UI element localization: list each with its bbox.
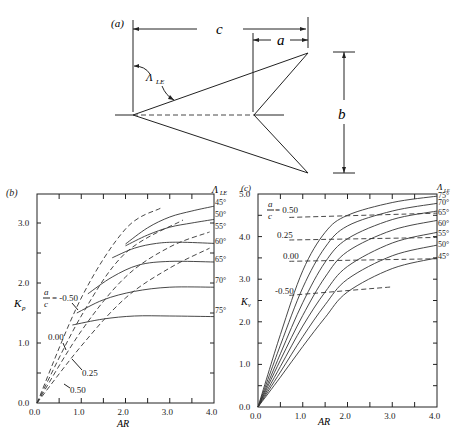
panel-b-ticks: 0.01.02.03.04.00.01.02.03.045°50°55°60°6… xyxy=(18,194,226,417)
x-tick-label: 0.0 xyxy=(29,407,41,417)
ac-ratio-curve xyxy=(289,213,437,217)
panel-b-ac-000: 0.00 xyxy=(48,332,64,342)
figure-canvas: (a) c a Λ LE b ( xyxy=(0,0,463,436)
panel-b-ylabel: K xyxy=(13,297,22,309)
dim-b-label: b xyxy=(338,106,346,122)
panel-c-ac-025: 0.25 xyxy=(277,230,293,240)
y-tick-label: 0.0 xyxy=(18,398,30,408)
sweep-curve xyxy=(258,220,437,407)
sweep-angle-label: 45° xyxy=(215,198,226,207)
sweep-angle-label: 65° xyxy=(215,255,226,264)
sweep-angle-label: 50° xyxy=(215,210,226,219)
panel-b-sweep-header-sub: LE xyxy=(219,190,227,196)
x-tick-label: 1.0 xyxy=(295,411,307,421)
panel-a-planform: (a) c a Λ LE b xyxy=(111,17,355,173)
sweep-curve xyxy=(77,287,214,313)
panel-c-ac-den: c xyxy=(268,211,272,221)
y-tick-label: 5.0 xyxy=(239,189,251,199)
panel-b-ac-num: a xyxy=(44,287,49,297)
sweep-angle-label: 70° xyxy=(215,276,226,285)
sweep-angle-label: 60° xyxy=(215,237,226,246)
sweep-angle-label: 60° xyxy=(438,219,449,228)
sweep-angle-label: 65° xyxy=(438,208,449,217)
panel-c-sweep-header-sub: LE xyxy=(443,188,450,193)
y-tick-label: 3.0 xyxy=(239,274,251,284)
dim-a-label: a xyxy=(277,32,285,48)
x-tick-label: 0.0 xyxy=(250,411,262,421)
x-tick-label: 2.0 xyxy=(340,411,352,421)
sweep-angle-label: 55° xyxy=(438,229,449,238)
y-tick-label: 3.0 xyxy=(18,218,30,228)
panel-b-sweep-header: Λ xyxy=(211,184,218,195)
panel-c-ac-first: = 0.50 xyxy=(275,205,299,215)
sweep-curve xyxy=(72,316,214,325)
sweep-angle-label: 75° xyxy=(215,306,226,315)
panel-c-curves xyxy=(258,196,437,407)
panel-b-chart: (b) 0.01.02.03.04.00.01.02.03.045°50°55°… xyxy=(6,184,227,429)
panel-c-xlabel: AR xyxy=(317,416,330,427)
panel-c-chart: (c) 0.01.02.03.04.00.01.02.03.04.05.075°… xyxy=(239,182,450,427)
dim-c-label: c xyxy=(216,21,223,37)
panel-b-curves xyxy=(37,206,214,403)
x-tick-label: 1.0 xyxy=(73,407,85,417)
x-tick-label: 2.0 xyxy=(118,407,130,417)
y-tick-label: 2.0 xyxy=(239,317,251,327)
panel-b-ac-025: 0.25 xyxy=(82,368,98,378)
panel-b-ac-050: 0.50 xyxy=(70,385,86,395)
y-tick-label: 1.0 xyxy=(239,359,251,369)
panel-b-ac-first: = -0.50 xyxy=(52,293,79,303)
x-tick-label: 3.0 xyxy=(162,407,174,417)
sweep-angle-subscript: LE xyxy=(155,78,165,86)
y-tick-label: 4.0 xyxy=(239,232,251,242)
panel-c-ac-000: 0.00 xyxy=(283,251,299,261)
panel-b-ac-den: c xyxy=(44,299,48,309)
x-tick-label: 4.0 xyxy=(429,411,441,421)
sweep-curve xyxy=(258,245,437,407)
ac-ratio-curve xyxy=(289,259,437,262)
panel-c-ac-num: a xyxy=(268,199,273,209)
panel-c-ac-neg050: -0.50 xyxy=(275,286,294,296)
sweep-angle-label: 50° xyxy=(438,240,449,249)
y-tick-label: 2.0 xyxy=(18,278,30,288)
panel-c-ylabel-sub: v xyxy=(248,302,251,308)
panel-c-sweep-header: Λ xyxy=(436,182,443,192)
sweep-curve xyxy=(258,211,437,407)
sweep-curve xyxy=(126,219,215,245)
sweep-curve xyxy=(126,206,215,244)
y-tick-label: 0.0 xyxy=(239,402,251,412)
ac-ratio-curve xyxy=(289,237,437,240)
ac-ratio-curve xyxy=(37,220,183,403)
panel-a-label: (a) xyxy=(111,17,124,30)
ac-ratio-curve xyxy=(289,287,392,296)
panel-b-ylabel-sub: p xyxy=(21,304,26,312)
sweep-angle-symbol: Λ xyxy=(145,71,153,83)
x-tick-label: 4.0 xyxy=(206,407,218,417)
sweep-curve xyxy=(258,196,437,407)
panel-b-label: (b) xyxy=(6,187,18,199)
x-tick-label: 3.0 xyxy=(384,411,396,421)
panel-b-xlabel: AR xyxy=(116,418,129,429)
sweep-angle-label: 45° xyxy=(438,252,449,261)
sweep-angle-label: 55° xyxy=(215,222,226,231)
y-tick-label: 1.0 xyxy=(18,338,30,348)
sweep-angle-label: 70° xyxy=(438,198,449,207)
ac-ratio-curve xyxy=(37,232,210,403)
